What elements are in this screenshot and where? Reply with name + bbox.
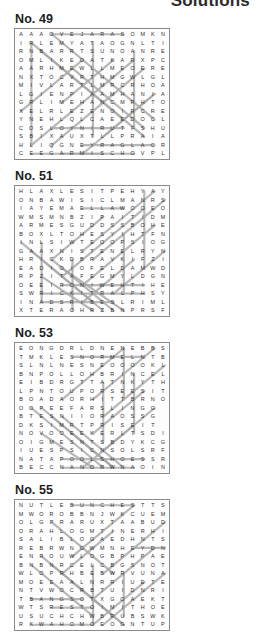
letter-grid: AAAOVEJARASOMKNIRLEMYATAOGNLTIRNBARRTSUN… — [16, 30, 168, 158]
grid-cell: P — [148, 149, 158, 158]
word-search-grid[interactable]: NUTLEBUNCHESTTSMWOROBBNJWKCUEMOLGPRARUXT… — [14, 499, 170, 631]
grid-cell: L — [127, 247, 137, 256]
grid-cell: T — [148, 378, 158, 387]
grid-cell: A — [127, 463, 137, 472]
grid-cell: M — [26, 213, 36, 222]
grid-cell: A — [138, 141, 148, 150]
grid-cell: A — [36, 595, 46, 604]
grid-cell: A — [57, 578, 67, 587]
grid-cell: K — [36, 353, 46, 362]
grid-cell: W — [87, 612, 97, 621]
grid-cell: I — [158, 39, 168, 48]
grid-cell: P — [158, 620, 168, 629]
grid-cell: R — [148, 107, 158, 116]
grid-cell: U — [117, 612, 127, 621]
grid-cell: X — [16, 107, 26, 116]
grid-cell: O — [16, 518, 26, 527]
grid-cell: C — [97, 196, 107, 205]
grid-cell: N — [138, 353, 148, 362]
grid-cell: S — [87, 47, 97, 56]
grid-cell: R — [97, 141, 107, 150]
grid-cell: K — [127, 378, 137, 387]
grid-cell: A — [67, 272, 77, 281]
grid-cell: I — [46, 289, 56, 298]
grid-cell: R — [138, 527, 148, 536]
grid-cell: S — [57, 298, 67, 307]
grid-cell: N — [57, 463, 67, 472]
grid-cell: P — [26, 387, 36, 396]
grid-cell: B — [107, 306, 117, 315]
grid-cell: D — [46, 395, 56, 404]
grid-cell: O — [87, 603, 97, 612]
word-search-grid[interactable]: AAAOVEJARASOMKNIRLEMYATAOGNLTIRNBARRTSUN… — [14, 28, 170, 160]
grid-cell: B — [67, 213, 77, 222]
grid-cell: V — [36, 81, 46, 90]
word-search-grid[interactable]: EONGDRLDNENEBBSTMKLESNORMELNTBSLNLNESNEO… — [14, 342, 170, 474]
grid-cell: O — [87, 412, 97, 421]
grid-cell: Q — [67, 115, 77, 124]
grid-cell: M — [16, 510, 26, 519]
grid-cell: L — [26, 141, 36, 150]
grid-cell: E — [77, 561, 87, 570]
grid-cell: L — [26, 361, 36, 370]
grid-cell: C — [87, 115, 97, 124]
grid-cell: N — [67, 141, 77, 150]
grid-cell: X — [138, 56, 148, 65]
grid-cell: R — [57, 561, 67, 570]
grid-cell: G — [36, 518, 46, 527]
grid-cell: E — [107, 535, 117, 544]
puzzle-block-2: No. 51 HLAXLESITPEHYAYONBAWISICLMANRSIAY… — [14, 169, 170, 317]
grid-cell: S — [148, 289, 158, 298]
grid-cell: N — [57, 361, 67, 370]
grid-cell: S — [117, 421, 127, 430]
grid-cell: S — [16, 535, 26, 544]
grid-cell: A — [67, 463, 77, 472]
grid-cell: L — [77, 344, 87, 353]
grid-cell: E — [67, 56, 77, 65]
grid-cell: O — [16, 527, 26, 536]
puzzle-label: No. 55 — [15, 483, 170, 497]
grid-cell: B — [16, 412, 26, 421]
grid-cell: Y — [117, 272, 127, 281]
grid-cell: O — [148, 603, 158, 612]
grid-cell: E — [77, 141, 87, 150]
grid-cell: L — [46, 361, 56, 370]
grid-cell: E — [67, 361, 77, 370]
grid-cell: O — [148, 561, 158, 570]
grid-cell: A — [107, 412, 117, 421]
grid-cell: W — [67, 238, 77, 247]
grid-cell: K — [148, 361, 158, 370]
grid-cell: I — [36, 141, 46, 150]
grid-cell: T — [158, 595, 168, 604]
grid-cell: O — [67, 527, 77, 536]
grid-cell: R — [87, 255, 97, 264]
grid-cell: A — [87, 30, 97, 39]
grid-cell: P — [97, 213, 107, 222]
grid-cell: P — [26, 272, 36, 281]
grid-cell: E — [127, 527, 137, 536]
grid-cell: E — [26, 149, 36, 158]
grid-cell: C — [46, 255, 56, 264]
grid-cell: C — [16, 124, 26, 133]
grid-cell: T — [26, 603, 36, 612]
grid-cell: H — [117, 149, 127, 158]
word-search-grid[interactable]: HLAXLESITPEHYAYONBAWISICLMANRSIAYEMAELLA… — [14, 185, 170, 317]
grid-cell: K — [117, 255, 127, 264]
grid-cell: R — [148, 586, 158, 595]
grid-cell: T — [97, 187, 107, 196]
grid-cell: O — [57, 387, 67, 396]
grid-cell: N — [36, 387, 46, 396]
grid-cell: A — [127, 518, 137, 527]
grid-cell: T — [57, 230, 67, 239]
grid-cell: E — [97, 620, 107, 629]
grid-cell: U — [127, 578, 137, 587]
grid-cell: O — [26, 124, 36, 133]
grid-cell: B — [107, 561, 117, 570]
grid-cell: V — [138, 149, 148, 158]
grid-cell: L — [36, 39, 46, 48]
grid-cell: I — [36, 132, 46, 141]
grid-cell: R — [67, 344, 77, 353]
puzzle-block-3: No. 53 EONGDRLDNENEBBSTMKLESNORMELNTBSLN… — [14, 326, 170, 474]
grid-cell: O — [117, 446, 127, 455]
grid-cell: H — [97, 73, 107, 82]
